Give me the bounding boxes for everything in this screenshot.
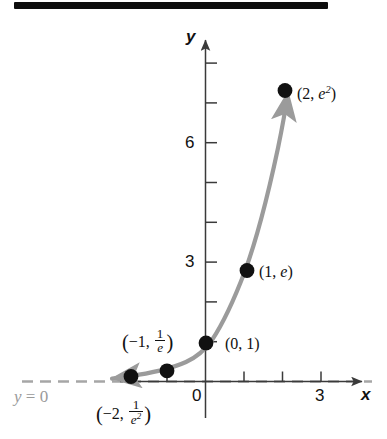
point-label-neg2-open: ( <box>96 403 103 425</box>
point-label-one-open: (1, <box>259 263 280 280</box>
point-label-two-close: ) <box>331 85 336 102</box>
y-axis-ticks <box>206 63 218 342</box>
x-tick-label-3: 3 <box>315 387 324 404</box>
point-label-neg1-fraction: 1e <box>155 327 166 355</box>
asymptote-label: y = 0 <box>14 388 48 405</box>
point-label-neg2-den-exp: 2 <box>137 411 141 421</box>
asymptote-label-eq: = 0 <box>22 387 49 406</box>
point-label-neg2-denominator: e2 <box>129 411 143 427</box>
point-dot-one <box>240 263 255 278</box>
point-label-neg2-close: ) <box>144 403 151 425</box>
point-label-neg1: (−1, 1e) <box>122 327 173 355</box>
point-label-neg1-text: −1, <box>129 333 154 350</box>
y-tick-label-6: 6 <box>185 134 194 151</box>
point-label-two-open: (2, <box>297 85 318 102</box>
point-dot-neg1 <box>160 363 175 378</box>
point-label-neg1-open: ( <box>122 331 129 353</box>
point-label-one: (1, e) <box>259 264 293 280</box>
point-label-neg2-fraction: 1e2 <box>129 398 143 427</box>
origin-label: 0 <box>192 387 201 404</box>
x-axis-label: x <box>361 386 370 403</box>
point-label-neg2-numerator: 1 <box>129 398 143 411</box>
point-label-neg2: (−2, 1e2) <box>96 398 151 427</box>
point-label-neg2-text: −2, <box>103 405 128 422</box>
point-dot-neg2 <box>124 369 139 384</box>
point-label-neg1-denominator: e <box>155 340 166 354</box>
point-label-zero: (0, 1) <box>225 336 260 352</box>
y-axis-label: y <box>186 28 195 45</box>
asymptote-label-var: y <box>14 387 22 406</box>
exponential-curve-plot <box>0 0 387 439</box>
point-label-neg1-numerator: 1 <box>155 327 166 340</box>
point-dot-two <box>278 83 293 98</box>
y-tick-label-3: 3 <box>185 253 194 270</box>
figure-root: y x 6 3 0 3 y = 0 (2, e2) (1, e) (0, 1) … <box>0 0 387 439</box>
point-dot-zero <box>199 336 214 351</box>
point-label-one-close: ) <box>287 263 292 280</box>
point-label-neg1-close: ) <box>166 331 173 353</box>
point-label-two: (2, e2) <box>297 85 336 102</box>
